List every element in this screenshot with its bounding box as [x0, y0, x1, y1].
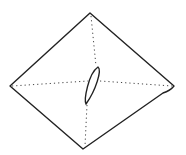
center-oval — [86, 67, 100, 104]
outline — [10, 13, 174, 149]
dotted-axis-horizontal-left — [12, 81, 88, 86]
diagram-canvas — [0, 0, 186, 155]
dotted-axis-horizontal-right — [100, 81, 172, 86]
dotted-axis-vertical-upper — [91, 16, 96, 66]
octahedron-diagram — [0, 0, 186, 155]
dotted-axis-vertical-lower — [85, 105, 87, 146]
